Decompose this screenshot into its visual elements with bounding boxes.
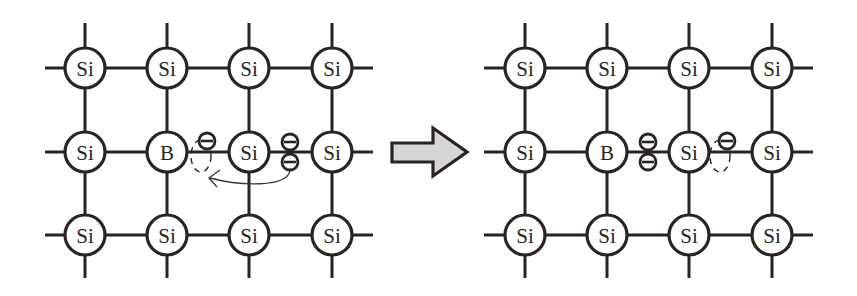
svg-text:Si: Si bbox=[158, 224, 176, 248]
transition-arrow-icon bbox=[392, 128, 467, 176]
svg-text:Si: Si bbox=[763, 57, 781, 81]
atom-si: Si bbox=[312, 132, 352, 172]
svg-text:Si: Si bbox=[763, 224, 781, 248]
svg-text:B: B bbox=[160, 141, 174, 165]
svg-text:B: B bbox=[600, 141, 614, 165]
svg-text:Si: Si bbox=[240, 141, 258, 165]
svg-text:Si: Si bbox=[323, 57, 341, 81]
svg-text:Si: Si bbox=[76, 57, 94, 81]
atom-si: Si bbox=[505, 48, 545, 88]
atom-si: Si bbox=[669, 215, 709, 255]
atom-si: Si bbox=[505, 132, 545, 172]
left-lattice: Si Si Si Si Si B Si Si Si Si Si Si bbox=[45, 23, 373, 278]
electron-icon bbox=[199, 133, 215, 149]
atom-si: Si bbox=[65, 132, 105, 172]
svg-text:Si: Si bbox=[680, 57, 698, 81]
svg-text:Si: Si bbox=[598, 57, 616, 81]
atom-si: Si bbox=[147, 48, 187, 88]
svg-text:Si: Si bbox=[76, 141, 94, 165]
atom-si: Si bbox=[752, 132, 792, 172]
atom-si: Si bbox=[65, 215, 105, 255]
svg-text:Si: Si bbox=[240, 224, 258, 248]
svg-text:Si: Si bbox=[763, 141, 781, 165]
atom-si: Si bbox=[669, 132, 709, 172]
svg-text:Si: Si bbox=[680, 141, 698, 165]
atom-si: Si bbox=[752, 215, 792, 255]
svg-text:Si: Si bbox=[516, 224, 534, 248]
atom-si: Si bbox=[229, 48, 269, 88]
svg-text:Si: Si bbox=[680, 224, 698, 248]
atom-si: Si bbox=[229, 215, 269, 255]
atom-si: Si bbox=[312, 48, 352, 88]
svg-text:Si: Si bbox=[240, 57, 258, 81]
svg-text:Si: Si bbox=[323, 141, 341, 165]
atom-boron: B bbox=[587, 132, 627, 172]
atom-si: Si bbox=[312, 215, 352, 255]
boron-doping-diagram: Si Si Si Si Si B Si Si Si Si Si Si bbox=[0, 0, 857, 296]
atom-si: Si bbox=[752, 48, 792, 88]
atom-si: Si bbox=[65, 48, 105, 88]
svg-text:Si: Si bbox=[323, 224, 341, 248]
atom-si: Si bbox=[147, 215, 187, 255]
atom-si: Si bbox=[587, 215, 627, 255]
svg-text:Si: Si bbox=[598, 224, 616, 248]
svg-text:Si: Si bbox=[516, 141, 534, 165]
atom-si: Si bbox=[505, 215, 545, 255]
svg-text:Si: Si bbox=[76, 224, 94, 248]
right-lattice: Si Si Si Si Si B Si Si Si Si Si Si bbox=[484, 23, 813, 278]
atom-boron: B bbox=[147, 132, 187, 172]
svg-text:Si: Si bbox=[516, 57, 534, 81]
svg-text:Si: Si bbox=[158, 57, 176, 81]
atom-si: Si bbox=[669, 48, 709, 88]
atom-si: Si bbox=[229, 132, 269, 172]
electron-icon bbox=[719, 133, 735, 149]
atom-si: Si bbox=[587, 48, 627, 88]
